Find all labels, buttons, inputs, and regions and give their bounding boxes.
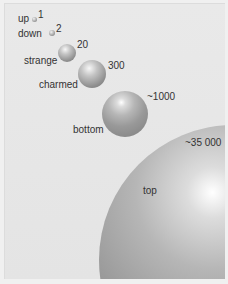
charmed-quark-sphere <box>78 60 106 88</box>
top-quark-sphere <box>99 125 225 279</box>
up-quark-sphere <box>32 17 37 22</box>
down-quark-sphere <box>49 30 55 36</box>
charmed-quark-label: charmed <box>39 80 78 90</box>
up-quark-mass: 1 <box>38 10 44 20</box>
charmed-quark-mass: 300 <box>108 61 125 71</box>
bottom-quark-mass: ~1000 <box>147 92 175 102</box>
strange-quark-sphere <box>58 44 76 62</box>
top-quark-mass: ~35 000 <box>185 138 221 148</box>
quark-mass-diagram: up 1 down 2 strange 20 charmed 300 botto… <box>4 3 225 279</box>
top-quark-label: top <box>143 186 157 196</box>
strange-quark-mass: 20 <box>77 40 88 50</box>
down-quark-mass: 2 <box>56 24 62 34</box>
down-quark-label: down <box>18 29 42 39</box>
up-quark-label: up <box>18 14 29 24</box>
bottom-quark-label: bottom <box>73 125 104 135</box>
strange-quark-label: strange <box>24 56 57 66</box>
bottom-quark-sphere <box>102 91 148 137</box>
